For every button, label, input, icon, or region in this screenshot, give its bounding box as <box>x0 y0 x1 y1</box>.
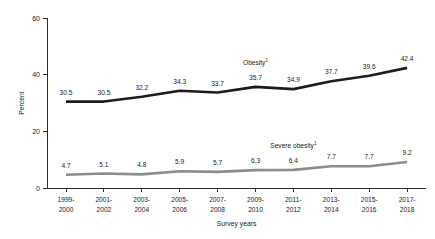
y-tick-label: 0 <box>36 185 40 192</box>
data-point-label: 5.1 <box>99 161 108 168</box>
y-tick-label: 20 <box>32 128 40 135</box>
chart-container: 0204060 1999-20002001-20022003-20042005-… <box>0 0 435 239</box>
series-label-obesity: Obesity1 <box>243 58 268 67</box>
data-point-label: 34.9 <box>287 76 300 83</box>
y-axis-title: Percent <box>18 91 25 115</box>
x-tick-label: 2009- <box>247 196 264 203</box>
data-point-label: 30.5 <box>60 89 73 96</box>
x-tick-label: 2008 <box>210 206 225 213</box>
data-point-label: 9.2 <box>403 149 412 156</box>
data-series <box>66 68 407 175</box>
x-tick-label: 2005- <box>171 196 188 203</box>
x-tick-label: 2001- <box>95 196 112 203</box>
x-tick-label: 1999- <box>58 196 75 203</box>
x-tick-label: 2000 <box>59 206 74 213</box>
x-tick-label: 2004 <box>134 206 149 213</box>
series-line-obesity <box>66 68 407 102</box>
x-tick-label: 2007- <box>209 196 226 203</box>
x-tick-label: 2012 <box>286 206 301 213</box>
data-point-label: 39.6 <box>363 63 376 70</box>
y-axis-ticks: 0204060 <box>32 15 47 192</box>
x-tick-label: 2010 <box>248 206 263 213</box>
data-point-label: 34.3 <box>173 78 186 85</box>
series-line-severe-obesity <box>66 162 407 175</box>
x-tick-label: 2011- <box>285 196 301 203</box>
data-point-label: 7.7 <box>327 153 336 160</box>
data-point-label: 37.7 <box>325 68 338 75</box>
y-tick-label: 40 <box>32 71 40 78</box>
data-point-label: 5.9 <box>175 158 184 165</box>
data-point-label: 6.4 <box>289 157 298 164</box>
data-point-label: 6.3 <box>251 157 260 164</box>
x-tick-label: 2013- <box>323 196 340 203</box>
data-point-label: 7.7 <box>365 153 374 160</box>
x-tick-label: 2015- <box>361 196 378 203</box>
data-point-labels: 30.530.532.234.333.735.734.937.739.642.4… <box>60 55 414 169</box>
x-axis-ticks: 1999-20002001-20022003-20042005-20062007… <box>58 188 416 213</box>
x-tick-label: 2006 <box>172 206 187 213</box>
x-tick-label: 2016 <box>362 206 377 213</box>
x-tick-label: 2014 <box>324 206 339 213</box>
x-tick-label: 2002 <box>97 206 112 213</box>
data-point-label: 4.7 <box>61 162 70 169</box>
x-tick-label: 2003- <box>133 196 150 203</box>
x-tick-label: 2018 <box>400 206 415 213</box>
data-point-label: 35.7 <box>249 74 262 81</box>
data-point-label: 5.7 <box>213 159 222 166</box>
data-point-label: 30.5 <box>97 89 110 96</box>
x-axis-title: Survey years <box>217 220 257 228</box>
data-point-label: 4.8 <box>137 161 146 168</box>
data-point-label: 33.7 <box>211 80 224 87</box>
data-point-label: 32.2 <box>135 84 148 91</box>
y-tick-label: 60 <box>32 15 40 22</box>
series-label-severe-obesity: Severe obesity1 <box>270 141 317 150</box>
x-tick-label: 2017- <box>399 196 416 203</box>
line-chart: 0204060 1999-20002001-20022003-20042005-… <box>0 0 435 239</box>
data-point-label: 42.4 <box>401 55 414 62</box>
